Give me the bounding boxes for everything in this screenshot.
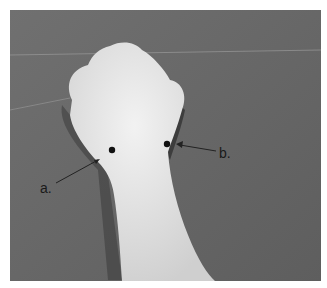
label-a: a. xyxy=(40,180,52,196)
marker-b xyxy=(164,141,170,147)
label-b: b. xyxy=(219,145,231,161)
photograph: a. b. xyxy=(10,10,321,281)
marker-a xyxy=(109,147,115,153)
photo-illustration xyxy=(10,10,321,281)
